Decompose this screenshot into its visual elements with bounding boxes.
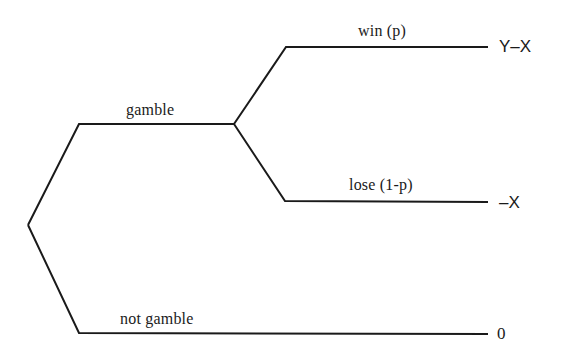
branch-label-win: win (p) xyxy=(358,22,406,40)
branch-label-gamble: gamble xyxy=(126,101,174,119)
payoff-not-gamble: 0 xyxy=(497,325,506,343)
branch-win-line xyxy=(234,47,488,124)
payoff-lose: –X xyxy=(499,194,520,212)
branch-not-gamble-line xyxy=(28,225,488,334)
branch-label-lose: lose (1-p) xyxy=(349,176,413,194)
branch-gamble-line xyxy=(28,124,234,225)
branch-label-not-gamble: not gamble xyxy=(120,310,194,328)
tree-lines xyxy=(0,0,564,361)
payoff-win: Y–X xyxy=(499,38,531,56)
